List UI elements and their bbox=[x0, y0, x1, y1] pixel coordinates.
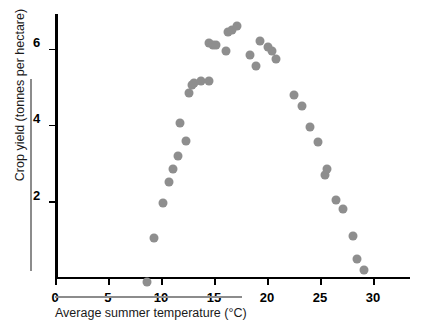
x-tick-label: 30 bbox=[366, 290, 380, 305]
x-tick-mark bbox=[373, 279, 375, 285]
data-point bbox=[331, 195, 340, 204]
x-tick-label: 15 bbox=[207, 290, 221, 305]
x-tick-mark bbox=[161, 279, 163, 285]
data-point bbox=[297, 102, 306, 111]
x-axis-title: Average summer temperature (°C) bbox=[55, 306, 355, 320]
data-point bbox=[182, 136, 191, 145]
data-point bbox=[252, 62, 261, 71]
data-point bbox=[176, 119, 185, 128]
data-point bbox=[143, 277, 152, 286]
data-point bbox=[360, 266, 369, 275]
data-point bbox=[165, 178, 174, 187]
data-point bbox=[149, 233, 158, 242]
y-tick-mark bbox=[49, 201, 55, 203]
y-tick-label: 6 bbox=[33, 35, 40, 50]
data-point bbox=[323, 165, 332, 174]
plot-area: 051015202530 246 bbox=[55, 14, 410, 279]
data-point bbox=[306, 123, 315, 132]
x-tick-label: 10 bbox=[154, 290, 168, 305]
data-point bbox=[313, 138, 322, 147]
data-point bbox=[348, 231, 357, 240]
x-axis-title-rule bbox=[55, 296, 242, 298]
data-point bbox=[255, 37, 264, 46]
data-point bbox=[159, 199, 168, 208]
scatter-plot-figure: 051015202530 246 Average summer temperat… bbox=[0, 0, 426, 330]
y-axis-line bbox=[55, 14, 58, 279]
x-tick-mark bbox=[320, 279, 322, 285]
y-axis-title: Crop yield (tonnes per hectare) bbox=[13, 5, 27, 185]
data-point bbox=[233, 22, 242, 31]
data-point bbox=[245, 50, 254, 59]
x-tick-mark bbox=[214, 279, 216, 285]
x-tick-mark bbox=[108, 279, 110, 285]
data-point bbox=[212, 41, 221, 50]
x-tick-label: 20 bbox=[260, 290, 274, 305]
y-tick-label: 4 bbox=[33, 111, 40, 126]
y-tick-label: 2 bbox=[33, 187, 40, 202]
data-point bbox=[173, 151, 182, 160]
x-tick-mark bbox=[55, 279, 57, 285]
data-point bbox=[290, 90, 299, 99]
y-tick-mark bbox=[49, 125, 55, 127]
x-tick-mark bbox=[267, 279, 269, 285]
x-tick-label: 5 bbox=[104, 290, 111, 305]
y-axis-title-rule bbox=[30, 79, 32, 271]
x-tick-label: 0 bbox=[51, 290, 58, 305]
data-point bbox=[204, 77, 213, 86]
data-point bbox=[353, 254, 362, 263]
data-point bbox=[168, 165, 177, 174]
y-tick-mark bbox=[49, 49, 55, 51]
data-point bbox=[339, 205, 348, 214]
data-point bbox=[221, 46, 230, 55]
data-point bbox=[272, 54, 281, 63]
x-tick-label: 25 bbox=[313, 290, 327, 305]
